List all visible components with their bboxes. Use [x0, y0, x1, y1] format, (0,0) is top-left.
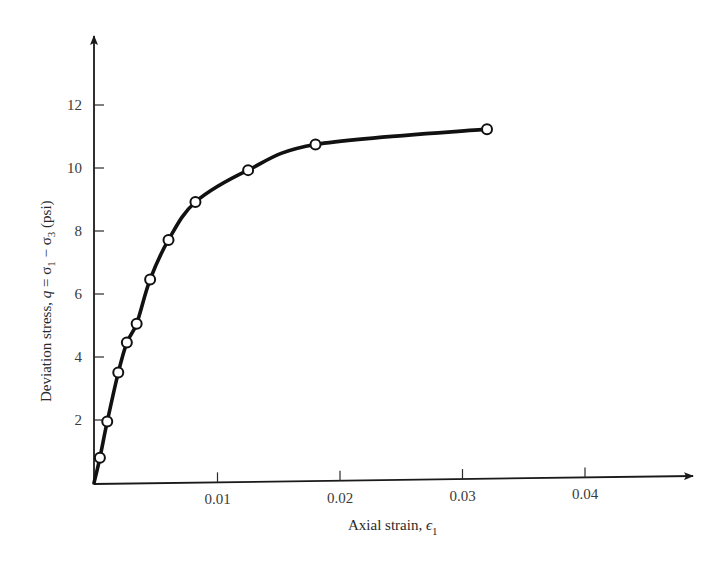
data-point-marker — [95, 453, 105, 463]
stress-strain-curve — [94, 129, 487, 483]
data-markers — [95, 124, 492, 463]
x-ticks: 0.010.020.030.04 — [204, 467, 598, 507]
x-tick-label: 0.02 — [327, 490, 353, 506]
y-tick-label: 8 — [75, 223, 83, 239]
x-axis — [94, 476, 693, 484]
data-point-marker — [482, 124, 492, 134]
y-ticks: 24681012 — [67, 97, 104, 428]
data-point-marker — [122, 338, 132, 348]
y-tick-label: 6 — [75, 286, 83, 302]
chart-canvas: 24681012 0.010.020.030.04 Axial strain, … — [0, 0, 727, 570]
data-point-marker — [102, 416, 112, 426]
x-tick-label: 0.01 — [204, 491, 230, 507]
y-axis-label: Deviation stress, q = σ1 − σ3 (psi) — [38, 200, 57, 402]
y-tick-label: 4 — [75, 349, 83, 365]
x-tick-label: 0.03 — [449, 488, 475, 504]
data-point-marker — [243, 165, 253, 175]
x-axis-label: Axial strain, ϵ1 — [348, 517, 437, 537]
data-point-marker — [145, 274, 155, 284]
data-curve — [94, 129, 487, 483]
x-tick-label: 0.04 — [572, 486, 599, 502]
y-tick-label: 12 — [67, 97, 82, 113]
data-point-marker — [164, 235, 174, 245]
data-point-marker — [132, 319, 142, 329]
axes — [94, 36, 693, 484]
data-point-marker — [190, 197, 200, 207]
data-point-marker — [311, 139, 321, 149]
data-point-marker — [113, 368, 123, 378]
y-tick-label: 2 — [75, 412, 83, 428]
y-tick-label: 10 — [67, 160, 82, 176]
